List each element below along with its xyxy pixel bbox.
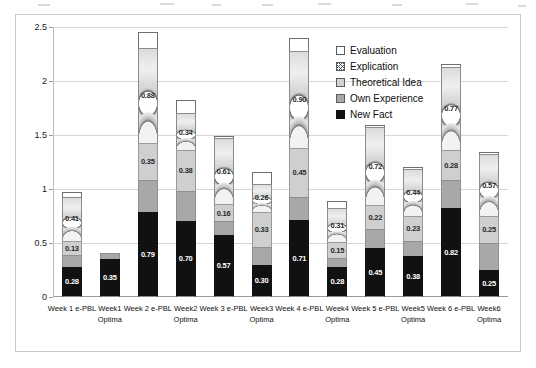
- bar-segment[interactable]: 0.57: [214, 235, 234, 297]
- bar-segment[interactable]: 0.26: [252, 184, 272, 212]
- plot-area: 00.511.522.5 0.410.130.280.350.880.350.7…: [53, 27, 508, 297]
- bar-segment[interactable]: 0.28: [62, 267, 82, 297]
- bar-segment[interactable]: 0.90: [289, 51, 309, 148]
- x-axis-label-line1: Week2: [174, 304, 197, 313]
- x-axis-label-line1: Week4: [326, 304, 349, 313]
- bar-segment[interactable]: [479, 243, 499, 270]
- legend-swatch-icon: [336, 78, 345, 87]
- stacked-bar[interactable]: 0.35: [100, 253, 120, 297]
- stacked-bar[interactable]: 0.260.330.30: [252, 172, 272, 297]
- bar-segment[interactable]: 0.61: [214, 138, 234, 204]
- stacked-bar[interactable]: 0.310.150.28: [327, 201, 347, 297]
- bar-segment[interactable]: 0.35: [100, 259, 120, 297]
- bar-value-label: 0.35: [103, 274, 117, 282]
- bar-value-label: 0.44: [406, 189, 420, 197]
- bar-segment[interactable]: 0.34: [176, 113, 196, 150]
- bar-value-label: 0.45: [293, 169, 307, 177]
- bar-value-label: 0.28: [330, 278, 344, 286]
- bar-value-label: 0.71: [293, 255, 307, 263]
- bar-segment[interactable]: 0.41: [62, 197, 82, 241]
- bar-value-label: 0.16: [217, 210, 231, 218]
- y-tick-label: 1: [42, 184, 47, 194]
- bar-segment[interactable]: 0.45: [365, 248, 385, 297]
- y-tick-mark: [49, 81, 53, 82]
- bar-segment[interactable]: 0.38: [176, 150, 196, 191]
- bar-segment[interactable]: 0.23: [403, 216, 423, 241]
- bar-segment[interactable]: [365, 229, 385, 248]
- bar-value-label: 0.35: [141, 158, 155, 166]
- bar-segment[interactable]: 0.28: [327, 267, 347, 297]
- bar-segment[interactable]: [138, 180, 158, 211]
- bar-value-label: 0.38: [406, 273, 420, 281]
- x-axis-label-line2: Optima: [82, 314, 138, 325]
- y-tick-label: 0: [42, 292, 47, 302]
- stacked-bar[interactable]: 0.340.380.70: [176, 100, 196, 297]
- stacked-bar[interactable]: 0.720.220.45: [365, 125, 385, 297]
- bar-segment[interactable]: 0.71: [289, 220, 309, 297]
- bar-segment[interactable]: 0.16: [214, 204, 234, 221]
- legend-label: New Fact: [350, 109, 392, 120]
- bar-segment[interactable]: 0.25: [479, 270, 499, 297]
- bar-value-label: 0.45: [368, 269, 382, 277]
- legend-swatch-icon: [336, 94, 345, 103]
- stacked-bar[interactable]: 0.900.450.71: [289, 38, 309, 297]
- bar-segment[interactable]: [176, 100, 196, 113]
- bar-segment[interactable]: 0.28: [441, 150, 461, 180]
- bar-segment[interactable]: [289, 197, 309, 221]
- stacked-bar[interactable]: 0.440.230.38: [403, 167, 423, 297]
- bar-value-label: 0.23: [406, 225, 420, 233]
- bar-value-label: 0.30: [255, 277, 269, 285]
- bar-segment[interactable]: [327, 258, 347, 267]
- legend-item[interactable]: Evaluation: [336, 42, 423, 58]
- stacked-bar[interactable]: 0.570.250.25: [479, 152, 499, 297]
- bar-segment[interactable]: 0.15: [327, 242, 347, 258]
- bar-segment[interactable]: [214, 221, 234, 235]
- bar-segment[interactable]: 0.31: [327, 208, 347, 241]
- bar-segment[interactable]: 0.82: [441, 208, 461, 297]
- bar-segment[interactable]: [252, 247, 272, 264]
- x-axis-label-line1: Week5: [402, 304, 425, 313]
- legend-item[interactable]: New Fact: [336, 106, 423, 122]
- bar-segment[interactable]: 0.30: [252, 265, 272, 297]
- bar-value-label: 0.77: [444, 105, 458, 113]
- bar-segment[interactable]: [62, 255, 82, 267]
- legend-item[interactable]: Own Experience: [336, 90, 423, 106]
- stacked-bar[interactable]: 0.410.130.28: [62, 192, 82, 297]
- bar-segment[interactable]: [441, 180, 461, 208]
- bar-segment[interactable]: [289, 38, 309, 51]
- stacked-bar[interactable]: 0.770.280.82: [441, 64, 461, 297]
- y-tick-label: 2: [42, 76, 47, 86]
- bar-value-label: 0.90: [293, 96, 307, 104]
- bar-segment[interactable]: 0.33: [252, 212, 272, 248]
- bar-segment[interactable]: [252, 172, 272, 184]
- bar-segment[interactable]: 0.79: [138, 212, 158, 297]
- bar-segment[interactable]: 0.57: [479, 154, 499, 216]
- bar-segment[interactable]: 0.70: [176, 221, 196, 297]
- stacked-bar[interactable]: 0.880.350.79: [138, 32, 158, 297]
- bar-value-label: 0.88: [141, 92, 155, 100]
- x-axis-label-line2: Optima: [234, 314, 290, 325]
- bar-segment[interactable]: [138, 32, 158, 47]
- bar-segment[interactable]: 0.38: [403, 256, 423, 297]
- bar-segment[interactable]: 0.88: [138, 48, 158, 143]
- bar-segment[interactable]: [176, 191, 196, 221]
- bar-segment[interactable]: 0.77: [441, 67, 461, 150]
- bar-segment[interactable]: 0.44: [403, 169, 423, 217]
- chart-frame: 00.511.522.5 0.410.130.280.350.880.350.7…: [15, 14, 521, 352]
- bar-segment[interactable]: [327, 201, 347, 209]
- bar-segment[interactable]: 0.45: [289, 148, 309, 197]
- bar-segment[interactable]: 0.25: [479, 216, 499, 243]
- stacked-bar[interactable]: 0.610.160.57: [214, 136, 234, 297]
- legend-item[interactable]: Theoretical Idea: [336, 74, 423, 90]
- bar-segment[interactable]: 0.22: [365, 205, 385, 229]
- bar-segment[interactable]: [403, 241, 423, 256]
- legend-item[interactable]: Explication: [336, 58, 423, 74]
- y-tick-mark: [49, 27, 53, 28]
- bar-value-label: 0.57: [217, 262, 231, 270]
- bar-segment[interactable]: 0.72: [365, 127, 385, 205]
- bar-segment[interactable]: 0.35: [138, 143, 158, 181]
- bar-value-label: 0.79: [141, 251, 155, 259]
- bar-value-label: 0.15: [330, 247, 344, 255]
- bar-value-label: 0.57: [482, 182, 496, 190]
- bar-segment[interactable]: 0.13: [62, 241, 82, 255]
